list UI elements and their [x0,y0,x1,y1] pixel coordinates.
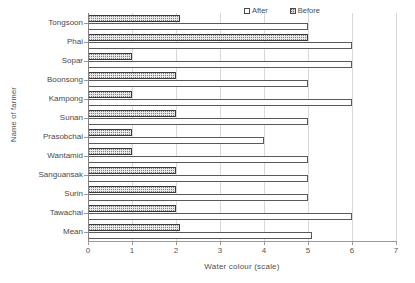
bar-group: Mean [88,222,396,241]
x-tick-label-1: 1 [120,246,144,255]
plot-area: TongsoonPhaiSoparBoonsongKampongSunanPra… [88,13,396,241]
y-axis-label-wantamid: Wantamid [0,151,83,160]
gridline-0 [88,13,89,241]
bar-before-sanguansak [88,167,176,175]
bar-group: Tongsoon [88,13,396,32]
bar-group: Wantamid [88,146,396,165]
y-axis-label-tongsoon: Tongsoon [0,18,83,27]
bar-after-surin [88,194,308,202]
bar-group: Tawachai [88,203,396,222]
x-tick-5 [308,241,309,245]
y-axis-label-boonsong: Boonsong [0,75,83,84]
bar-group: Sopar [88,51,396,70]
x-tick-2 [176,241,177,245]
bar-after-mean [88,232,312,240]
y-axis-label-tawachai: Tawachai [0,208,83,217]
y-axis-label-phai: Phai [0,37,83,46]
bar-before-tongsoon [88,15,180,23]
y-axis-label-mean: Mean [0,227,83,236]
bar-before-mean [88,224,180,232]
x-tick-label-7: 7 [384,246,408,255]
bar-after-sanguansak [88,175,308,183]
x-axis-line [88,241,396,242]
x-tick-label-3: 3 [208,246,232,255]
bar-group: Boonsong [88,70,396,89]
bar-group: Sunan [88,108,396,127]
bar-group: Sanguansak [88,165,396,184]
x-tick-label-6: 6 [340,246,364,255]
bar-before-prasobchai [88,129,132,137]
bar-after-tongsoon [88,23,308,31]
x-tick-6 [352,241,353,245]
x-tick-label-2: 2 [164,246,188,255]
bar-group: Surin [88,184,396,203]
x-axis-title: Water colour (scale) [88,262,396,271]
x-tick-label-0: 0 [76,246,100,255]
y-axis-label-sopar: Sopar [0,56,83,65]
y-axis-label-sanguansak: Sanguansak [0,170,83,179]
bar-group: Kampong [88,89,396,108]
bar-after-wantamid [88,156,308,164]
bar-before-surin [88,186,176,194]
x-tick-4 [264,241,265,245]
bar-group: Phai [88,32,396,51]
y-axis-label-surin: Surin [0,189,83,198]
x-tick-label-4: 4 [252,246,276,255]
x-tick-1 [132,241,133,245]
bar-before-sunan [88,110,176,118]
bar-after-kampong [88,99,352,107]
bar-before-sopar [88,53,132,61]
bar-before-tawachai [88,205,176,213]
y-axis-label-kampong: Kampong [0,94,83,103]
x-tick-0 [88,241,89,245]
y-axis-label-sunan: Sunan [0,113,83,122]
x-tick-label-5: 5 [296,246,320,255]
x-tick-3 [220,241,221,245]
bar-before-boonsong [88,72,176,80]
gridline-7 [396,13,397,241]
bar-after-sunan [88,118,308,126]
bar-after-sopar [88,61,352,69]
y-axis-label-prasobchai: Prasobchai [0,132,83,141]
bar-before-kampong [88,91,132,99]
bar-after-boonsong [88,80,308,88]
bar-after-prasobchai [88,137,264,145]
bar-after-tawachai [88,213,352,221]
bar-chart: Name of farmer AfterBefore TongsoonPhaiS… [0,0,415,283]
bar-before-phai [88,34,308,42]
bar-group: Prasobchai [88,127,396,146]
bar-after-phai [88,42,352,50]
bar-before-wantamid [88,148,132,156]
x-tick-7 [396,241,397,245]
